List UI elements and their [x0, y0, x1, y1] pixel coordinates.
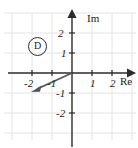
imaginary-axis-title: Im: [87, 13, 99, 24]
region-label-text: D: [34, 41, 41, 51]
real-axis-title: Re: [120, 76, 132, 87]
tick-label-x-minus1: -1: [47, 78, 56, 89]
complex-plane-figure: Im Re 2 1 -1 -2 -2 -1 1 2 D: [0, 0, 138, 148]
tick-label-y-1: 1: [61, 48, 67, 59]
tick-label-y-minus1: -1: [56, 88, 65, 99]
tick-label-x-1: 1: [90, 78, 96, 89]
argand-diagram-canvas: [0, 0, 138, 148]
region-label-badge: D: [28, 37, 47, 56]
tick-label-y-minus2: -2: [56, 108, 65, 119]
tick-label-x-2: 2: [110, 78, 116, 89]
tick-label-x-minus2: -2: [24, 78, 33, 89]
tick-label-y-2: 2: [58, 28, 64, 39]
